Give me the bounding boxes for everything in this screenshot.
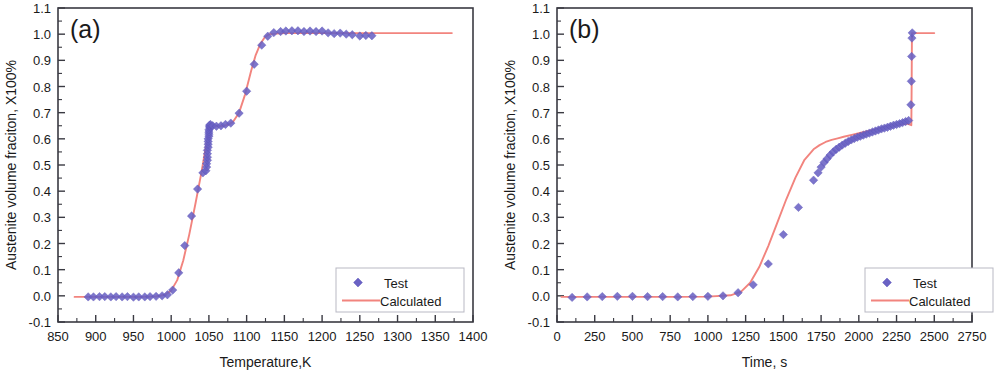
y-tick-label: 0.4: [532, 184, 550, 199]
test-data-point: [643, 292, 651, 300]
x-tick-label: 1400: [459, 329, 488, 344]
x-tick-label: 2750: [958, 329, 987, 344]
x-tick-label: 950: [123, 329, 145, 344]
test-data-point: [704, 292, 712, 300]
y-tick-label: 0.9: [33, 53, 51, 68]
y-tick-label: 1.1: [532, 1, 550, 16]
x-tick-label: 2000: [844, 329, 873, 344]
y-tick-label: 0.6: [33, 132, 51, 147]
test-data-point: [734, 288, 742, 296]
x-tick-label: 1200: [308, 329, 337, 344]
y-tick-label: 1.1: [33, 1, 51, 16]
test-data-point: [794, 203, 802, 211]
calculated-line: [562, 33, 935, 297]
test-data-point: [764, 260, 772, 268]
x-tick-label: 1350: [421, 329, 450, 344]
y-tick-label: -0.1: [29, 315, 51, 330]
x-tick-label: 1100: [233, 329, 261, 344]
y-tick-label: 1.0: [33, 27, 51, 42]
test-data-point: [809, 176, 817, 184]
y-tick-label: -0.1: [528, 315, 550, 330]
x-tick-label: 2500: [920, 329, 949, 344]
test-data-point: [598, 292, 606, 300]
panel-letter: (b): [569, 15, 600, 43]
legend: TestCalculated: [336, 268, 464, 312]
x-tick-label: 1000: [693, 329, 722, 344]
legend-calculated-label: Calculated: [380, 294, 441, 309]
test-data-point: [907, 101, 915, 109]
test-data-point: [628, 292, 636, 300]
y-axis-title: Austenite volume fraciton, X100%: [502, 60, 518, 270]
x-tick-label: 1300: [383, 329, 412, 344]
y-tick-label: 0.5: [33, 158, 51, 173]
y-tick-label: 0.5: [532, 158, 550, 173]
legend-test-label: Test: [913, 276, 937, 291]
y-tick-label: 0.8: [532, 80, 550, 95]
y-tick-label: 0.2: [532, 237, 550, 252]
x-tick-label: 0: [553, 329, 560, 344]
x-tick-label: 1250: [345, 329, 374, 344]
x-tick-label: 1050: [194, 329, 223, 344]
y-tick-label: 0.8: [33, 80, 51, 95]
y-tick-label: 0.0: [33, 289, 51, 304]
x-tick-label: 1750: [807, 329, 836, 344]
legend-calculated-label: Calculated: [909, 294, 970, 309]
legend: TestCalculated: [865, 268, 993, 312]
x-tick-label: 1250: [731, 329, 760, 344]
test-scatter-series: [568, 29, 917, 302]
y-tick-label: 0.7: [33, 106, 51, 121]
x-tick-label: 1150: [270, 329, 298, 344]
test-data-point: [907, 77, 915, 85]
test-data-point: [689, 292, 697, 300]
y-tick-label: 0.7: [532, 106, 550, 121]
calculated-line: [75, 33, 452, 297]
y-tick-label: 0.2: [33, 237, 51, 252]
legend-test-label: Test: [384, 276, 408, 291]
test-data-point: [658, 292, 666, 300]
y-tick-label: 0.0: [532, 289, 550, 304]
x-tick-label: 250: [584, 329, 606, 344]
x-axis-title: Time, s: [742, 354, 787, 370]
test-data-point: [583, 293, 591, 301]
test-data-point: [242, 87, 250, 95]
panel-letter: (a): [70, 15, 101, 43]
test-data-point: [908, 29, 916, 37]
test-data-point: [613, 292, 621, 300]
test-data-point: [175, 269, 183, 277]
x-tick-label: 1500: [769, 329, 798, 344]
y-tick-label: 0.9: [532, 53, 550, 68]
test-data-point: [674, 293, 682, 301]
x-axis-title: Temperature,K: [220, 354, 312, 370]
test-data-point: [719, 292, 727, 300]
chart-panel-b: 0250500750100012501500175020002250250027…: [499, 0, 999, 376]
x-tick-label: 900: [85, 329, 107, 344]
x-tick-label: 850: [47, 329, 69, 344]
test-data-point: [907, 52, 915, 60]
y-tick-label: 0.3: [33, 210, 51, 225]
y-tick-label: 0.1: [532, 263, 550, 278]
test-data-point: [779, 230, 787, 238]
figure-austenite-volume-fraction: 8509009501000105011001150120012501300135…: [0, 0, 999, 376]
test-data-point: [193, 185, 201, 193]
test-data-point: [348, 30, 356, 38]
y-tick-label: 1.0: [532, 27, 550, 42]
y-tick-label: 0.6: [532, 132, 550, 147]
x-tick-label: 500: [622, 329, 644, 344]
y-tick-label: 0.1: [33, 263, 51, 278]
y-axis-title: Austenite volume fraciton, X100%: [3, 60, 19, 270]
x-tick-label: 1000: [157, 329, 186, 344]
y-tick-label: 0.3: [532, 210, 550, 225]
x-tick-label: 750: [659, 329, 681, 344]
x-tick-label: 2250: [882, 329, 911, 344]
y-tick-label: 0.4: [33, 184, 51, 199]
test-scatter-series: [84, 27, 376, 302]
chart-panel-a: 8509009501000105011001150120012501300135…: [0, 0, 500, 376]
test-data-point: [568, 293, 576, 301]
